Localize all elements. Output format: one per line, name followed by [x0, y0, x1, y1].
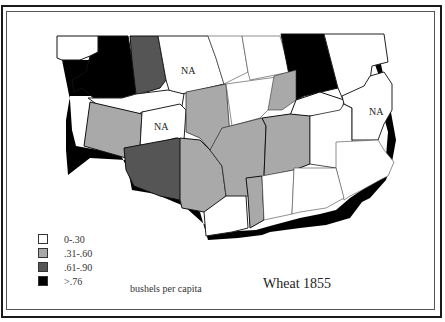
legend-item: .31-.60 [38, 246, 92, 260]
legend-item: >.76 [38, 274, 92, 288]
legend-label: .31-.60 [64, 248, 92, 259]
map-legend: 0-.30 .31-.60 .61-.90 >.76 [38, 232, 92, 288]
legend-label: >.76 [64, 276, 82, 287]
legend-swatch-class1 [38, 248, 48, 258]
na-label-east: NA [369, 106, 384, 117]
unit-label: bushels per capita [130, 283, 202, 294]
legend-swatch-class3 [38, 276, 48, 286]
na-label-mid: NA [154, 121, 169, 132]
region-class0-s3 [292, 168, 344, 214]
region-class0-s2 [262, 170, 294, 220]
na-label-top: NA [181, 65, 196, 76]
region-class1-s [246, 176, 264, 228]
map-title: Wheat 1855 [263, 276, 331, 292]
region-class2-sw [124, 138, 188, 200]
legend-item: .61-.90 [38, 260, 92, 274]
legend-swatch-class0 [38, 234, 48, 244]
region-class1-ne [268, 70, 296, 110]
legend-label: .61-.90 [64, 262, 92, 273]
legend-label: 0-.30 [64, 234, 85, 245]
legend-swatch-class2 [38, 262, 48, 272]
legend-item: 0-.30 [38, 232, 92, 246]
region-class1-ec [262, 114, 310, 176]
